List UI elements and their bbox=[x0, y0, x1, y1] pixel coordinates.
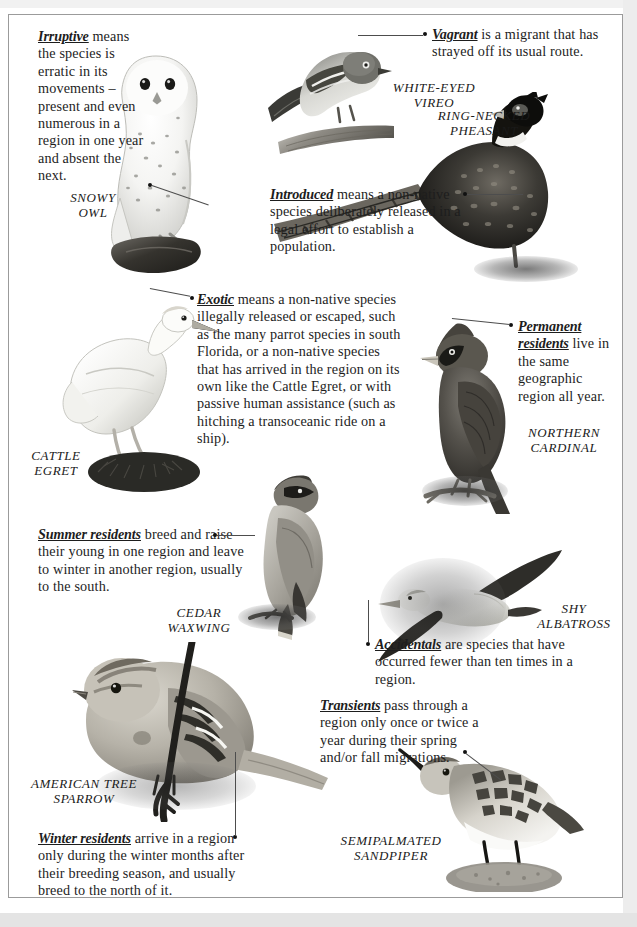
term-winter-residents: Winter residents bbox=[38, 830, 131, 846]
cedar-waxwing-name-line1: CEDAR bbox=[155, 605, 243, 620]
cedar-waxwing-name-line2: WAXWING bbox=[155, 620, 243, 635]
ring-necked-pheasant-name-line2: PHEASANT bbox=[425, 123, 543, 138]
snowy-owl-name-line1: SNOWY bbox=[48, 190, 138, 205]
waxwing-ground-shadow bbox=[238, 604, 316, 630]
species-caption-cedar-waxwing: CEDAR WAXWING bbox=[155, 605, 243, 635]
species-caption-shy-albatross: SHY ALBATROSS bbox=[532, 601, 616, 631]
leader-line-accidentals bbox=[368, 600, 369, 642]
semipalmated-sandpiper-name-line2: SANDPIPER bbox=[330, 848, 452, 863]
species-caption-snowy-owl: SNOWY OWL bbox=[48, 190, 138, 220]
term-summer-residents: Summer residents bbox=[38, 526, 141, 542]
glossary-introduced: Introduced means a non-native species de… bbox=[270, 186, 470, 256]
american-tree-sparrow-name-line1: AMERICAN TREE bbox=[22, 776, 146, 791]
cattle-egret-name-line2: EGRET bbox=[20, 463, 92, 478]
species-caption-cattle-egret: CATTLE EGRET bbox=[20, 448, 92, 478]
cardinal-ground-shadow bbox=[422, 476, 508, 506]
species-caption-ring-necked-pheasant: RING-NECKED PHEASANT bbox=[425, 108, 543, 138]
species-caption-american-tree-sparrow: AMERICAN TREE SPARROW bbox=[22, 776, 146, 806]
glossary-irruptive: Irruptive means the species is erratic i… bbox=[38, 28, 144, 185]
species-caption-northern-cardinal: NORTHERN CARDINAL bbox=[516, 425, 612, 455]
scan-gutter-bottom bbox=[0, 913, 637, 927]
species-caption-semipalmated-sandpiper: SEMIPALMATED SANDPIPER bbox=[330, 833, 452, 863]
glossary-vagrant: Vagrant is a migrant that has strayed of… bbox=[432, 26, 610, 61]
northern-cardinal-name-line1: NORTHERN bbox=[516, 425, 612, 440]
field-guide-page: Irruptive means the species is erratic i… bbox=[0, 0, 637, 927]
term-accidentals: Accidentals bbox=[375, 636, 441, 652]
glossary-exotic-text: means a non-native species illegally rel… bbox=[197, 291, 401, 446]
leader-line-winter bbox=[235, 752, 236, 836]
leader-line-introduced bbox=[467, 194, 523, 195]
scan-gutter-top bbox=[0, 0, 637, 8]
glossary-irruptive-text: means the species is erratic in its move… bbox=[38, 28, 143, 183]
cattle-egret-name-line1: CATTLE bbox=[20, 448, 92, 463]
ring-necked-pheasant-name-line1: RING-NECKED bbox=[425, 108, 543, 123]
glossary-exotic: Exotic means a non-native species illega… bbox=[197, 291, 402, 448]
shy-albatross-name-line2: ALBATROSS bbox=[532, 616, 616, 631]
shy-albatross-name-line1: SHY bbox=[532, 601, 616, 616]
term-exotic: Exotic bbox=[197, 291, 234, 307]
semipalmated-sandpiper-name-line1: SEMIPALMATED bbox=[330, 833, 452, 848]
scan-gutter-right bbox=[623, 0, 637, 927]
term-irruptive: Irruptive bbox=[38, 28, 89, 44]
term-vagrant: Vagrant bbox=[432, 26, 478, 42]
glossary-transients: Transients pass through a region only on… bbox=[320, 697, 492, 767]
glossary-permanent-residents: Permanent residents live in the same geo… bbox=[518, 318, 614, 405]
glossary-winter-residents: Winter residents arrive in a region only… bbox=[38, 830, 254, 900]
american-tree-sparrow-name-line2: SPARROW bbox=[22, 791, 146, 806]
species-caption-white-eyed-vireo: WHITE-EYED VIREO bbox=[379, 80, 489, 110]
term-introduced: Introduced bbox=[270, 186, 333, 202]
leader-line-vagrant bbox=[358, 35, 423, 36]
leader-line-summer bbox=[217, 535, 255, 536]
pheasant-ground-shadow bbox=[474, 256, 578, 282]
northern-cardinal-name-line2: CARDINAL bbox=[516, 440, 612, 455]
leader-dot-exotic bbox=[190, 296, 194, 300]
leader-dot-accidentals bbox=[366, 642, 370, 646]
term-transients: Transients bbox=[320, 697, 380, 713]
snowy-owl-name-line2: OWL bbox=[48, 205, 138, 220]
glossary-accidentals: Accidentals are species that have occurr… bbox=[375, 636, 589, 688]
leader-dot-vagrant bbox=[423, 32, 427, 36]
cedar-waxwing-illustration bbox=[244, 472, 360, 642]
white-eyed-vireo-name-line1: WHITE-EYED bbox=[379, 80, 489, 95]
